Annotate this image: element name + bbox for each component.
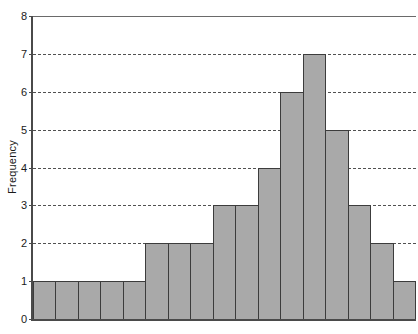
y-tick-label-6: 6 xyxy=(3,86,27,97)
y-tick-label-7: 7 xyxy=(3,48,27,59)
histogram-figure: Frequency 012345678 xyxy=(0,0,418,334)
histogram-bar xyxy=(55,281,78,319)
histogram-bar xyxy=(123,281,146,319)
plot-inner: 012345678 xyxy=(33,16,416,319)
histogram-bar xyxy=(370,243,393,319)
y-tick-label-2: 2 xyxy=(3,238,27,249)
histogram-bar xyxy=(348,205,371,319)
histogram-bar xyxy=(145,243,168,319)
y-tick-label-1: 1 xyxy=(3,276,27,287)
y-tick-label-5: 5 xyxy=(3,124,27,135)
histogram-bar xyxy=(190,243,213,319)
y-tick-mark-0 xyxy=(29,319,33,320)
y-tick-label-0: 0 xyxy=(3,314,27,325)
histogram-bar xyxy=(303,54,326,319)
bar-series xyxy=(33,16,416,319)
y-tick-label-3: 3 xyxy=(3,200,27,211)
histogram-bar xyxy=(325,130,348,319)
histogram-bar xyxy=(168,243,191,319)
histogram-bar xyxy=(258,168,281,320)
y-tick-label-4: 4 xyxy=(3,162,27,173)
histogram-bar xyxy=(235,205,258,319)
histogram-bar xyxy=(280,92,303,319)
histogram-bar xyxy=(33,281,56,319)
histogram-bar xyxy=(393,281,416,319)
y-tick-label-8: 8 xyxy=(3,11,27,22)
histogram-bar xyxy=(213,205,236,319)
histogram-bar xyxy=(78,281,101,319)
histogram-bar xyxy=(100,281,123,319)
plot-area: 012345678 xyxy=(31,16,416,321)
